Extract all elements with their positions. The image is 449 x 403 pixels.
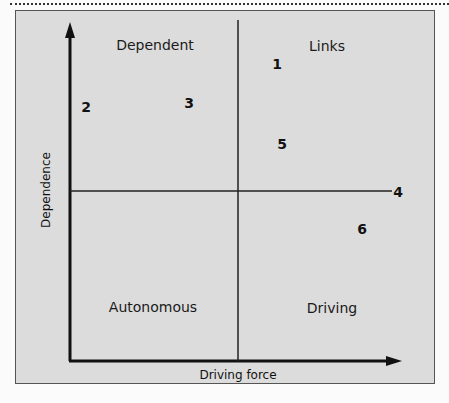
x-axis-arrow-icon	[386, 356, 402, 366]
x-axis-label: Driving force	[199, 368, 276, 382]
quadrant-label-driving: Driving	[307, 300, 357, 316]
point-2: 2	[81, 99, 91, 115]
quadrant-label-links: Links	[309, 38, 345, 54]
y-axis-arrow-icon	[65, 22, 75, 38]
quadrant-label-autonomous: Autonomous	[109, 299, 197, 315]
point-5: 5	[277, 136, 287, 152]
quadrant-label-dependent: Dependent	[116, 37, 194, 53]
quadrant-plot	[0, 0, 449, 403]
point-6: 6	[357, 221, 367, 237]
point-3: 3	[184, 95, 194, 111]
y-axis-label: Dependence	[39, 152, 53, 228]
point-1: 1	[272, 56, 282, 72]
point-4: 4	[393, 184, 403, 200]
